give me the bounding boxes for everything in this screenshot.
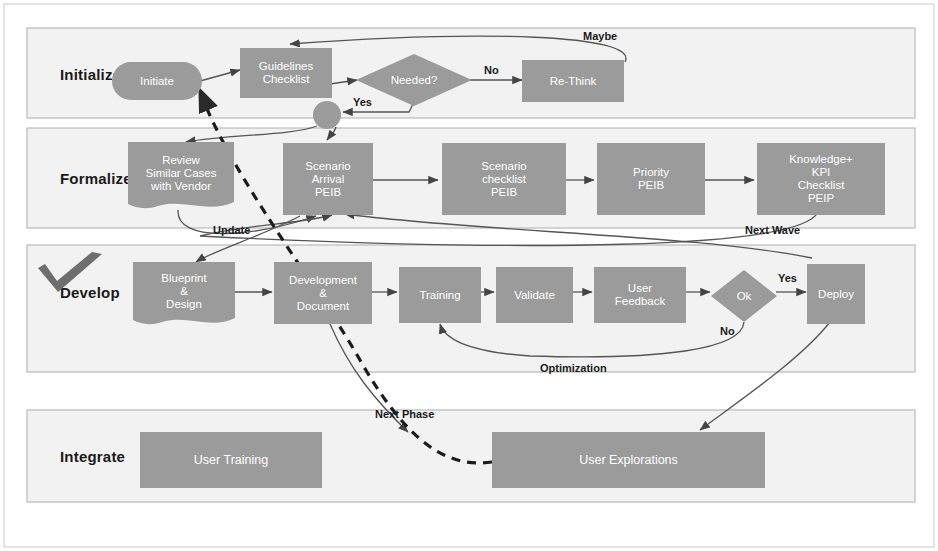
node-validate-label: Validate — [514, 289, 555, 302]
node-deploy-label: Deploy — [818, 288, 854, 301]
node-user-training[interactable]: User Training — [140, 432, 322, 488]
node-blueprint-design-label: Blueprint & Design — [161, 272, 206, 311]
node-review-similar-cases-label: Review Similar Cases with Vendor — [146, 154, 217, 193]
node-scenario-checklist-label: Scenario checklist PEIB — [481, 160, 526, 199]
node-ok-label: Ok — [737, 290, 752, 303]
node-guidelines-checklist[interactable]: Guidelines Checklist — [240, 48, 332, 98]
node-training[interactable]: Training — [399, 267, 481, 323]
node-knowledge-kpi[interactable]: Knowledge+ KPI Checklist PEIP — [757, 143, 885, 215]
node-rethink[interactable]: Re-Think — [522, 60, 624, 102]
node-priority-peib-label: Priority PEIB — [633, 166, 669, 192]
node-user-explorations-label: User Explorations — [579, 454, 678, 467]
edge-label-no-needed: No — [484, 64, 499, 76]
node-junction[interactable] — [313, 101, 341, 129]
node-scenario-arrival[interactable]: Scenario Arrival PEIB — [283, 143, 373, 215]
node-scenario-arrival-label: Scenario Arrival PEIB — [305, 160, 350, 199]
node-training-label: Training — [419, 289, 460, 302]
node-user-feedback[interactable]: User Feedback — [594, 267, 686, 323]
node-needed[interactable]: Needed? — [356, 54, 472, 106]
edge-label-update: Update — [213, 224, 250, 236]
node-scenario-checklist[interactable]: Scenario checklist PEIB — [442, 143, 566, 215]
node-priority-peib[interactable]: Priority PEIB — [597, 143, 705, 215]
node-needed-label: Needed? — [391, 74, 438, 87]
edge-label-maybe: Maybe — [583, 30, 617, 42]
edge-label-yes-needed: Yes — [353, 96, 372, 108]
node-development-document-label: Development & Document — [289, 274, 357, 313]
node-rethink-label: Re-Think — [550, 75, 597, 88]
flowchart-canvas: Initialize Formalize Develop Integrate I… — [0, 0, 938, 551]
node-knowledge-kpi-label: Knowledge+ KPI Checklist PEIP — [789, 153, 853, 205]
node-blueprint-design[interactable]: Blueprint & Design — [133, 262, 235, 320]
edge-label-next-phase: Next Phase — [375, 408, 434, 420]
node-ok[interactable]: Ok — [711, 270, 777, 322]
edge-label-yes-ok: Yes — [778, 272, 797, 284]
node-review-similar-cases[interactable]: Review Similar Cases with Vendor — [128, 142, 234, 204]
band-label-integrate: Integrate — [60, 448, 125, 465]
node-guidelines-checklist-label: Guidelines Checklist — [259, 60, 313, 86]
node-deploy[interactable]: Deploy — [807, 264, 865, 324]
node-user-training-label: User Training — [194, 454, 268, 467]
node-initiate[interactable]: Initiate — [112, 62, 202, 100]
node-user-explorations[interactable]: User Explorations — [492, 432, 765, 488]
node-validate[interactable]: Validate — [496, 267, 573, 323]
node-development-document[interactable]: Development & Document — [274, 262, 372, 324]
edge-label-no-ok: No — [720, 325, 735, 337]
edge-label-next-wave: Next Wave — [745, 224, 800, 236]
check-icon — [34, 252, 110, 298]
node-initiate-label: Initiate — [140, 75, 174, 88]
node-user-feedback-label: User Feedback — [615, 282, 666, 308]
edge-label-optimization: Optimization — [540, 362, 607, 374]
band-label-formalize: Formalize — [60, 170, 132, 187]
